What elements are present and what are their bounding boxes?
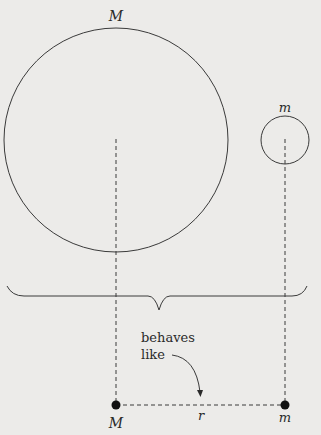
annotation-behaves: behaves [141,330,195,345]
arrowhead-icon [197,390,203,397]
point-mass-M [112,401,121,410]
point-mass-m-label: m [279,410,291,425]
annotation-like: like [141,347,165,362]
point-mass-M-label: M [108,415,124,431]
gravity-diagram: M m behaves like M m r [0,0,321,435]
large-body-label: M [108,8,124,24]
separation-label: r [198,408,205,423]
curved-arrow [172,355,200,392]
curly-brace [7,286,307,310]
point-mass-m [281,401,290,410]
small-body-label: m [279,100,291,115]
